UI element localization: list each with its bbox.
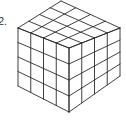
top-face-line (40, 15, 95, 39)
cube-diagram (0, 0, 126, 127)
top-face-line (29, 21, 82, 43)
